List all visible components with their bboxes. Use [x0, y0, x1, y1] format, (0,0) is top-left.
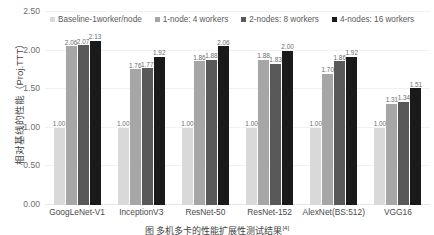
legend-label: 4-nodes: 16 workers [340, 15, 414, 24]
bar-item[interactable]: 1.00 [374, 12, 385, 205]
bar-item[interactable]: 1.51 [410, 12, 421, 205]
bar-item[interactable]: 1.92 [346, 12, 357, 205]
bar-value-label: 1.00 [245, 121, 257, 127]
bar-value-label: 1.31 [386, 97, 398, 103]
bar-value-label: 1.76 [129, 63, 141, 69]
bar[interactable] [90, 41, 101, 205]
bar-item[interactable]: 1.92 [154, 12, 165, 205]
bar-item[interactable]: 1.86 [194, 12, 205, 205]
bar-value-label: 1.70 [322, 67, 334, 73]
bar-item[interactable]: 1.83 [270, 12, 281, 205]
y-axis-tick: 0.50 [23, 160, 40, 170]
bar-item[interactable]: 1.00 [246, 12, 257, 205]
bar-groups: 1.002.062.072.131.001.761.771.921.001.86… [45, 12, 430, 205]
legend-label: 2-nodes: 8 workers [249, 15, 319, 24]
bar[interactable] [322, 74, 333, 205]
legend-swatch-icon [241, 17, 246, 22]
plot-area: 0.000.501.001.502.002.50 1.002.062.072.1… [45, 12, 430, 205]
bar[interactable] [154, 57, 165, 205]
chart-legend: Baseline-1worker/node1-node: 4 workers2-… [50, 12, 430, 26]
bar[interactable] [386, 104, 397, 205]
legend-item[interactable]: 4-nodes: 16 workers [332, 15, 414, 24]
bar[interactable] [54, 128, 65, 205]
bar-item[interactable]: 1.86 [334, 12, 345, 205]
legend-item[interactable]: Baseline-1worker/node [50, 15, 142, 24]
bar-item[interactable]: 1.00 [54, 12, 65, 205]
bar-group: 1.001.311.341.51 [366, 12, 430, 205]
legend-label: 1-node: 4 workers [163, 15, 229, 24]
bar-item[interactable]: 1.76 [130, 12, 141, 205]
bar-item[interactable]: 1.00 [310, 12, 321, 205]
bar[interactable] [334, 61, 345, 205]
bar[interactable] [398, 102, 409, 205]
bar-value-label: 1.00 [53, 121, 65, 127]
chart-figure: 相对基线的性能（Proj.TTT） 0.000.501.001.502.002.… [0, 0, 434, 235]
bar[interactable] [270, 64, 281, 205]
bar[interactable] [118, 128, 129, 205]
legend-item[interactable]: 2-nodes: 8 workers [241, 15, 319, 24]
bar-item[interactable]: 1.88 [258, 12, 269, 205]
bar-value-label: 1.86 [193, 55, 205, 61]
y-axis-tick: 2.00 [23, 45, 40, 55]
legend-item[interactable]: 1-node: 4 workers [155, 15, 229, 24]
bar-value-label: 1.00 [181, 121, 193, 127]
bar-value-label: 1.00 [310, 121, 322, 127]
bar-item[interactable]: 2.13 [90, 12, 101, 205]
bar-value-label: 1.51 [410, 82, 422, 88]
y-axis-tick: 2.50 [23, 6, 40, 16]
legend-label: Baseline-1worker/node [58, 15, 142, 24]
bar-value-label: 2.06 [217, 40, 229, 46]
bar[interactable] [346, 57, 357, 205]
bar[interactable] [142, 68, 153, 205]
bar-value-label: 1.86 [334, 55, 346, 61]
y-axis-tick: 1.50 [23, 83, 40, 93]
bar-item[interactable]: 1.00 [118, 12, 129, 205]
bar-item[interactable]: 2.07 [78, 12, 89, 205]
bar-item[interactable]: 2.00 [282, 12, 293, 205]
bar-value-label: 1.83 [269, 57, 281, 63]
legend-swatch-icon [332, 17, 337, 22]
bar-item[interactable]: 1.34 [398, 12, 409, 205]
bar-group: 1.001.861.882.06 [173, 12, 237, 205]
x-axis-category-label: ResNet-152 [238, 207, 302, 217]
bar-item[interactable]: 1.77 [142, 12, 153, 205]
bar[interactable] [282, 51, 293, 205]
bar-value-label: 1.77 [141, 62, 153, 68]
bar-group: 1.001.761.771.92 [109, 12, 173, 205]
bar-value-label: 2.13 [89, 34, 101, 40]
bar[interactable] [246, 128, 257, 205]
bar-value-label: 1.00 [374, 121, 386, 127]
legend-swatch-icon [50, 17, 55, 22]
bar-item[interactable]: 2.06 [218, 12, 229, 205]
y-axis-tick: 1.00 [23, 122, 40, 132]
x-axis-category-label: AlexNet(BS:512) [302, 207, 366, 217]
bar[interactable] [374, 128, 385, 205]
x-axis-category-label: GoogLeNet-V1 [45, 207, 109, 217]
bar-value-label: 1.92 [346, 50, 358, 56]
bar[interactable] [410, 88, 421, 205]
bar[interactable] [206, 60, 217, 205]
bar-value-label: 1.00 [117, 121, 129, 127]
bar-item[interactable]: 1.70 [322, 12, 333, 205]
x-axis-labels: GoogLeNet-V1InceptionV3ResNet-50ResNet-1… [45, 207, 430, 217]
x-axis-category-label: ResNet-50 [173, 207, 237, 217]
x-axis-category-label: VGG16 [366, 207, 430, 217]
bar[interactable] [130, 69, 141, 205]
bar-item[interactable]: 1.31 [386, 12, 397, 205]
bar-value-label: 1.34 [398, 95, 410, 101]
bar-item[interactable]: 1.88 [206, 12, 217, 205]
bar[interactable] [258, 60, 269, 205]
bar-item[interactable]: 1.00 [182, 12, 193, 205]
bar[interactable] [182, 128, 193, 205]
bar-item[interactable]: 2.06 [66, 12, 77, 205]
bar[interactable] [310, 128, 321, 205]
legend-swatch-icon [155, 17, 160, 22]
bar-value-label: 1.92 [153, 50, 165, 56]
bar[interactable] [218, 46, 229, 205]
figure-caption: 图 多机多卡的性能扩展性测试结果[4] [0, 224, 434, 235]
bar-value-label: 2.06 [65, 40, 77, 46]
bar[interactable] [66, 46, 77, 205]
figure-caption-text: 图 多机多卡的性能扩展性测试结果 [145, 226, 283, 235]
bar[interactable] [194, 61, 205, 205]
bar[interactable] [78, 45, 89, 205]
